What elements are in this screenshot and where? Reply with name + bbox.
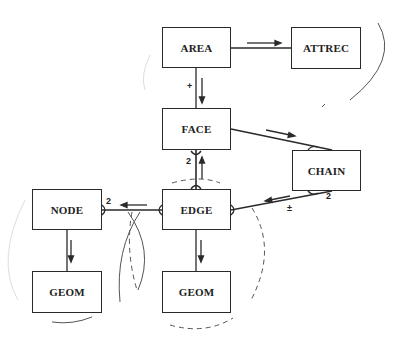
entity-label: CHAIN	[308, 165, 346, 177]
entity-edge[interactable]: EDGE	[162, 189, 231, 230]
entity-node[interactable]: NODE	[32, 189, 102, 230]
entity-label: GEOM	[49, 286, 85, 298]
entity-geom-node[interactable]: GEOM	[32, 271, 102, 313]
sign-chain-edge: ±	[287, 203, 292, 213]
entity-label: NODE	[51, 204, 84, 216]
entity-face[interactable]: FACE	[162, 108, 231, 150]
entity-label: AREA	[181, 42, 213, 54]
cardinality-area-face: +	[187, 81, 192, 91]
entity-label: ATTREC	[303, 42, 349, 54]
entity-label: FACE	[182, 123, 212, 135]
cardinality-chain: 2	[326, 191, 331, 201]
cardinality-node-edge: 2	[106, 196, 111, 206]
entity-attrec[interactable]: ATTREC	[291, 27, 361, 69]
entity-area[interactable]: AREA	[162, 27, 231, 68]
cardinality-edge-face: 2	[186, 156, 191, 166]
entity-label: EDGE	[181, 204, 213, 216]
entity-chain[interactable]: CHAIN	[292, 150, 361, 191]
entity-label: GEOM	[179, 286, 215, 298]
entity-geom-edge[interactable]: GEOM	[162, 271, 231, 313]
